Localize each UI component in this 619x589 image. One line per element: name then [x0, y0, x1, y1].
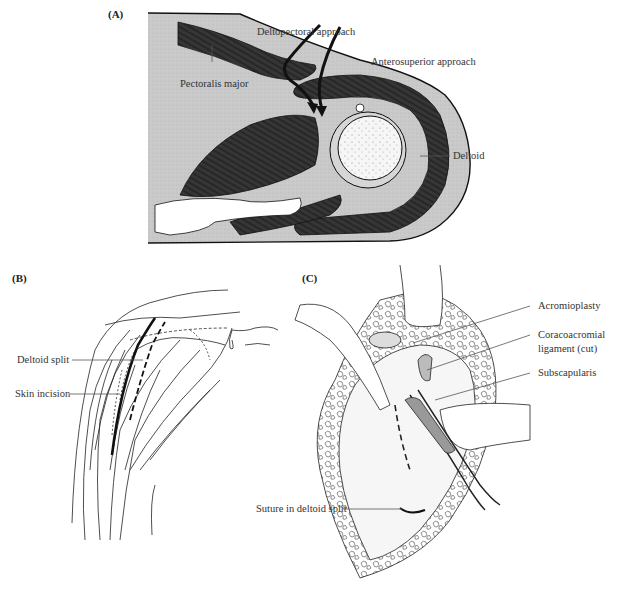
label-coracoacromial-line2: ligament (cut) — [538, 343, 597, 354]
panel-a-cross-section — [148, 13, 470, 243]
panel-c-label: (C) — [302, 272, 317, 284]
label-skin-incision: Skin incision — [15, 388, 70, 399]
label-pectoralis-major: Pectoralis major — [180, 78, 249, 89]
label-suture-in-deltoid-split: Suture in deltoid split — [256, 503, 347, 514]
panel-a-label: (A) — [108, 8, 123, 20]
label-coracoacromial-line1: Coracoacromial — [538, 329, 605, 340]
panel-b-deltoid-view — [70, 290, 278, 540]
label-anterosuperior-approach: Anterosuperior approach — [371, 56, 476, 67]
label-deltopectoral-approach: Deltopectoral approach — [257, 26, 355, 37]
label-deltoid: Deltoid — [453, 150, 485, 161]
label-deltoid-split: Deltoid split — [17, 354, 69, 365]
panel-c-operative-view — [295, 265, 530, 578]
label-acromioplasty: Acromioplasty — [538, 300, 600, 311]
figure-illustration — [0, 0, 619, 589]
label-subscapularis: Subscapularis — [538, 367, 596, 378]
panel-b-label: (B) — [12, 272, 27, 284]
